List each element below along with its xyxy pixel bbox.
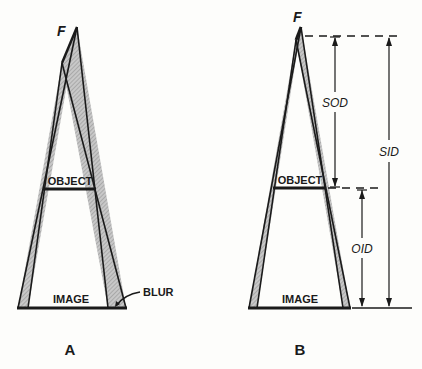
image-label-a: IMAGE bbox=[53, 293, 89, 305]
caption-a: A bbox=[65, 341, 76, 358]
geometric-unsharpness-figure: F OBJECT IMAGE BLUR A bbox=[0, 0, 422, 369]
object-label-a: OBJECT bbox=[48, 175, 93, 187]
sod-label: SOD bbox=[322, 96, 348, 110]
penumbra-right-a bbox=[62, 27, 126, 308]
oid-label: OID bbox=[351, 242, 373, 256]
diagram-b: F OBJECT IMAGE SOD OID SID B bbox=[248, 9, 412, 358]
diagram-a: F OBJECT IMAGE BLUR A bbox=[17, 23, 174, 358]
caption-b: B bbox=[295, 341, 306, 358]
object-label-b: OBJECT bbox=[278, 174, 323, 186]
blur-label: BLUR bbox=[143, 286, 174, 298]
sid-dimension bbox=[386, 37, 392, 307]
sod-dimension bbox=[330, 37, 340, 187]
sid-label: SID bbox=[379, 145, 399, 159]
focal-label-b: F bbox=[293, 9, 302, 25]
focal-label-a: F bbox=[57, 23, 66, 39]
image-label-b: IMAGE bbox=[282, 293, 318, 305]
